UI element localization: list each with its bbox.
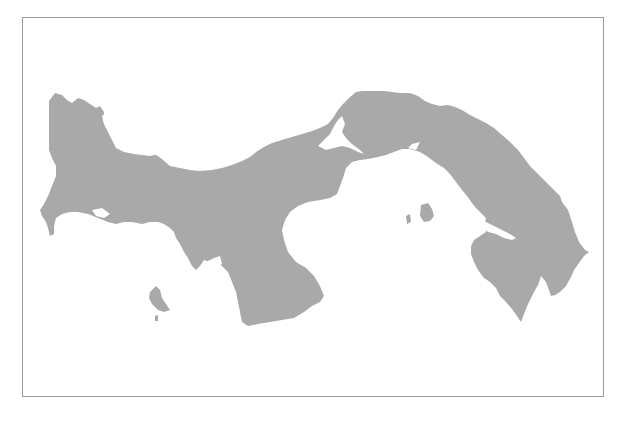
country-map bbox=[0, 0, 628, 427]
island-pearl-small bbox=[406, 214, 411, 224]
island-pearl-main bbox=[420, 203, 434, 222]
south-inlet-2 bbox=[208, 286, 222, 294]
island-west bbox=[149, 286, 170, 312]
islet-small bbox=[155, 315, 158, 321]
